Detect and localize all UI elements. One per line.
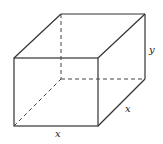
- bottom-right-edge: [98, 79, 145, 126]
- width-label: x: [55, 128, 61, 139]
- height-label: y: [148, 44, 155, 55]
- top-left-edge: [14, 14, 61, 58]
- top-right-edge: [98, 14, 145, 58]
- front-face: [14, 58, 98, 126]
- box-diagram: y x x: [0, 0, 163, 144]
- depth-label: x: [125, 103, 131, 114]
- hidden-left-bottom-edge: [14, 79, 61, 126]
